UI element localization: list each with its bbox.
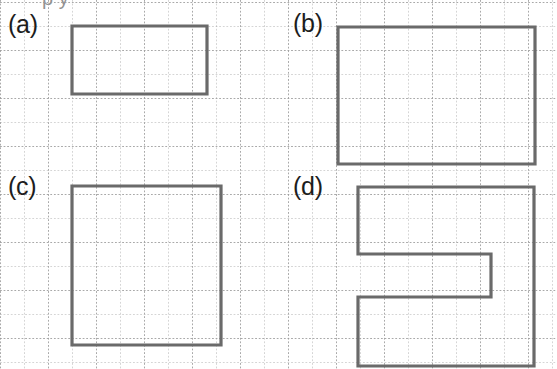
panel-label-c: (c)	[8, 174, 36, 199]
panel-label-b: (b)	[293, 11, 323, 36]
shape-outline-a	[72, 26, 207, 94]
panel-label-d: (d)	[293, 174, 323, 199]
shape-outline-c	[72, 186, 221, 345]
shapes-svg	[0, 0, 557, 369]
shape-outline-b	[338, 27, 535, 164]
panel-label-a: (a)	[8, 12, 38, 37]
shapes-layer	[0, 0, 557, 369]
figure-canvas: p y (a) (b) (c) (d)	[0, 0, 557, 369]
shape-outline-d	[358, 187, 534, 366]
